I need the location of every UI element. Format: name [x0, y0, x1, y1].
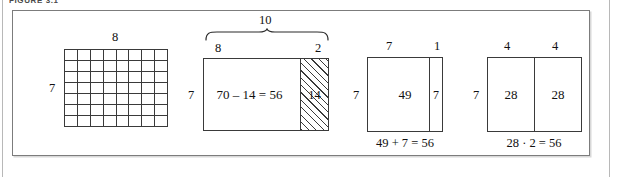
grid-cell [129, 105, 142, 116]
grid-cell [129, 116, 142, 127]
page-rule-right [609, 0, 610, 177]
grid-cell [65, 105, 78, 116]
grid-cell [117, 72, 130, 83]
figure-caption: FIGURE 3.1 [9, 0, 59, 5]
grid-cell [155, 61, 168, 72]
grid-cell [65, 50, 78, 61]
grid-cell [78, 105, 91, 116]
brace-label: 10 [259, 14, 272, 27]
page-rule-left [2, 0, 3, 177]
grid-cell [142, 72, 155, 83]
double-caption: 28 · 2 = 56 [482, 136, 586, 151]
grid-cell [155, 94, 168, 105]
split-strip-label: 7 [430, 87, 442, 102]
grid-cell [91, 105, 104, 116]
grid-cell [104, 72, 117, 83]
grid-cell [104, 94, 117, 105]
grid-cell [129, 94, 142, 105]
split-top-label-left: 7 [386, 40, 392, 53]
figure-frame: 8 7 10 8 2 7 7 [12, 10, 590, 156]
grid-cell [91, 94, 104, 105]
grid-cell [65, 72, 78, 83]
subtract-top-label-left: 8 [215, 42, 221, 55]
grid-cell [78, 94, 91, 105]
array-left-label: 7 [49, 82, 55, 95]
split-top-label-right: 1 [434, 40, 440, 53]
grid-cell [142, 50, 155, 61]
figure-container: FIGURE 3.1 8 7 10 8 [0, 0, 617, 177]
grid-cell [117, 105, 130, 116]
grid-cell [65, 61, 78, 72]
grid-cell [155, 105, 168, 116]
subtract-left-label: 7 [188, 89, 194, 102]
grid-cell [78, 50, 91, 61]
grid-cell [78, 116, 91, 127]
double-rect-left: 28 [487, 57, 535, 132]
grid-cell [78, 72, 91, 83]
grid-cell [104, 83, 117, 94]
grid-cell [78, 83, 91, 94]
grid-cell [91, 50, 104, 61]
double-top-label-right: 4 [552, 40, 558, 53]
double-left-label: 7 [473, 89, 479, 102]
grid-cell [78, 61, 91, 72]
grid-cell [117, 83, 130, 94]
grid-cell [117, 61, 130, 72]
grid-cell [155, 50, 168, 61]
subtract-top-label-right: 2 [315, 42, 321, 55]
grid-cell [129, 50, 142, 61]
grid-cell [91, 83, 104, 94]
subtract-expression: 70 – 14 = 56 [204, 87, 295, 103]
double-rect-left-label: 28 [488, 87, 534, 103]
grid-cell [129, 83, 142, 94]
grid-cell [142, 83, 155, 94]
split-narrow-strip: 7 [429, 57, 443, 132]
grid-cell [129, 72, 142, 83]
grid-cell [104, 50, 117, 61]
unit-square-grid [64, 49, 168, 127]
grid-cell [65, 94, 78, 105]
grid-cell [104, 105, 117, 116]
grid-cell [65, 83, 78, 94]
panel-unit-square-array: 8 7 [31, 11, 181, 155]
grid-cell [155, 116, 168, 127]
grid-cell [104, 61, 117, 72]
grid-cell [91, 72, 104, 83]
grid-cell [117, 94, 130, 105]
grid-cell [117, 50, 130, 61]
subtract-hatched-strip: 14 [300, 58, 329, 131]
grid-cell [142, 116, 155, 127]
grid-cell [142, 61, 155, 72]
double-top-label-left: 4 [504, 40, 510, 53]
brace-icon [205, 28, 329, 41]
grid-cell [142, 105, 155, 116]
grid-cell [155, 72, 168, 83]
panel-ten-minus-two-model: 10 8 2 7 70 – 14 = 56 14 [181, 11, 341, 155]
grid-cell [129, 61, 142, 72]
split-left-label: 7 [353, 89, 359, 102]
panel-seven-plus-one-model: 7 1 7 49 7 49 + 7 = 56 [341, 11, 461, 155]
double-rect-right: 28 [534, 57, 582, 132]
grid-cell [104, 116, 117, 127]
panel-double-four-model: 4 4 7 28 28 28 · 2 = 56 [461, 11, 591, 155]
grid-cell [65, 116, 78, 127]
array-top-label: 8 [112, 31, 118, 44]
hatched-strip-label: 14 [301, 87, 328, 102]
grid-cell [91, 116, 104, 127]
grid-cell [142, 94, 155, 105]
grid-cell [155, 83, 168, 94]
grid-cell [91, 61, 104, 72]
double-rect-right-label: 28 [535, 87, 581, 103]
grid-cell [117, 116, 130, 127]
split-caption: 49 + 7 = 56 [353, 136, 457, 151]
